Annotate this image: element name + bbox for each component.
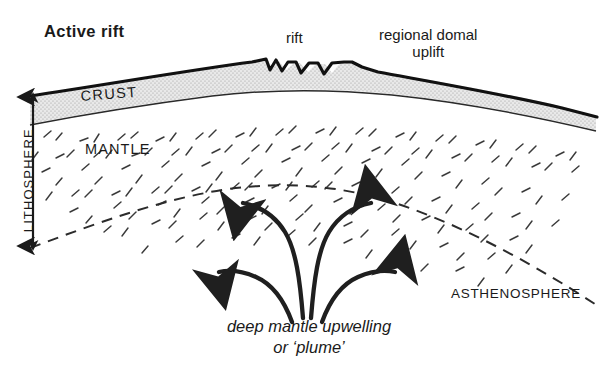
lithosphere-label: LITHOSPHERE xyxy=(22,110,37,250)
plume-arrow-outer-left xyxy=(219,271,292,322)
domal-uplift-label: regional domaluplift xyxy=(379,27,477,61)
asthenosphere-label: ASTHENOSPHERE xyxy=(451,286,581,301)
plume-caption: deep mantle upwellingor ‘plume’ xyxy=(166,316,452,359)
domal-uplift-label-line2: uplift xyxy=(412,43,444,60)
plume-arrow-inner-left xyxy=(243,203,303,318)
plume-caption-line2: or ‘plume’ xyxy=(273,338,345,356)
domal-uplift-label-line1: regional domal xyxy=(379,26,477,43)
figure-title: Active rift xyxy=(44,22,125,40)
plume-arrow-outer-right xyxy=(322,271,395,322)
rift-label: rift xyxy=(286,30,303,47)
plume-arrow-inner-right xyxy=(311,203,371,318)
plume-arrows xyxy=(219,203,395,322)
plume-caption-line1: deep mantle upwelling xyxy=(227,317,391,335)
figure-canvas: Active rift rift regional domaluplift CR… xyxy=(0,0,612,383)
mantle-label: MANTLE xyxy=(85,141,150,157)
